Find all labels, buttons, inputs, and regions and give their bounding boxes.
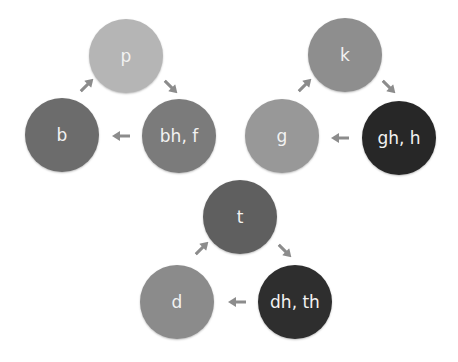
arrow-down-right-icon	[379, 77, 399, 97]
node-p: p	[89, 19, 163, 93]
node-gh-h: gh, h	[362, 101, 436, 175]
arrow-down-right-icon	[161, 77, 181, 97]
arrow-left-icon	[331, 133, 349, 143]
node-label: d	[172, 292, 183, 312]
node-label: p	[121, 46, 132, 66]
node-k: k	[308, 18, 382, 92]
node-g: g	[245, 99, 319, 173]
node-b: b	[25, 98, 99, 172]
node-label: b	[57, 125, 68, 145]
node-label: t	[237, 207, 244, 227]
node-dh-th: dh, th	[258, 265, 332, 339]
arrow-left-icon	[112, 131, 130, 141]
node-t: t	[203, 180, 277, 254]
node-d: d	[140, 265, 214, 339]
node-label: dh, th	[270, 292, 320, 312]
arrow-down-right-icon	[275, 241, 295, 261]
node-label: k	[340, 45, 350, 65]
node-label: g	[277, 126, 288, 146]
node-label: bh, f	[160, 126, 198, 146]
arrow-up-right-icon	[77, 75, 97, 95]
arrow-up-right-icon	[295, 75, 315, 95]
arrow-left-icon	[228, 297, 246, 307]
arrow-up-right-icon	[192, 238, 212, 258]
node-label: gh, h	[377, 128, 420, 148]
node-bh-f: bh, f	[142, 99, 216, 173]
